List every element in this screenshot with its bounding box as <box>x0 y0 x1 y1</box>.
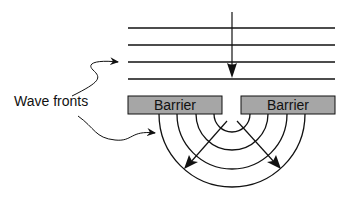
pointer-to-arc-front <box>78 116 155 140</box>
wave-fronts-label: Wave fronts <box>14 93 88 109</box>
spreading-arrow-left <box>190 121 227 163</box>
pointer-to-plane-front <box>72 61 118 96</box>
barrier-right-label: Barrier <box>267 97 309 113</box>
barrier-right: Barrier <box>241 96 335 114</box>
diffraction-diagram: Barrier Barrier Wave fronts <box>0 0 354 199</box>
barrier-left-label: Barrier <box>154 97 196 113</box>
spreading-arrow-right <box>237 121 275 163</box>
barrier-left: Barrier <box>128 96 222 114</box>
